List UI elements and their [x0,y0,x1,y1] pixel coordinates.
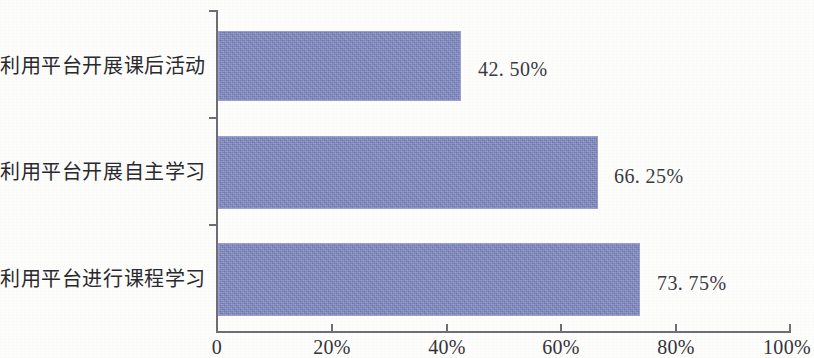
plot-area: 42. 50% 66. 25% 73. 75% 利用平台开展课后活动 利用平台开… [0,0,814,358]
bar-self-directed-learning [218,136,598,209]
y-axis-tick-1 [209,117,217,119]
x-axis-tick-40 [446,324,448,332]
bar-after-class-activities [218,31,461,101]
category-label-after-class-activities: 利用平台开展课后活动 [0,54,208,78]
x-axis-right-cap [789,324,791,333]
x-axis-tick-80 [675,324,677,332]
x-axis-label-20: 20% [313,336,351,358]
bar-value-self-directed-learning: 66. 25% [614,165,683,187]
x-axis-tick-60 [560,324,562,332]
bar-course-learning [218,243,640,316]
bar-value-course-learning: 73. 75% [657,272,726,294]
category-label-self-directed-learning: 利用平台开展自主学习 [0,160,208,184]
x-axis-label-100: 100% [763,336,811,358]
x-axis-label-40: 40% [428,336,466,358]
y-axis-top-cap [209,10,217,12]
x-axis-label-60: 60% [542,336,580,358]
x-axis-label-0: 0 [212,336,222,358]
y-axis-tick-2 [209,224,217,226]
x-axis-tick-20 [331,324,333,332]
x-axis-line [216,331,791,333]
category-label-course-learning: 利用平台进行课程学习 [0,267,208,291]
bar-value-after-class-activities: 42. 50% [478,58,547,80]
x-axis-label-80: 80% [657,336,695,358]
bar-chart-figure: 42. 50% 66. 25% 73. 75% 利用平台开展课后活动 利用平台开… [0,0,814,358]
